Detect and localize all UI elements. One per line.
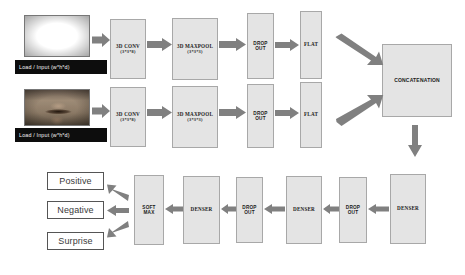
output-label-negative: Negative xyxy=(47,201,104,219)
arrow-softmax-to-negative xyxy=(107,205,129,216)
block-top-flat: FLAT xyxy=(300,11,322,79)
block-bottom-conv: 3D CONV (3*3*8) xyxy=(110,87,146,147)
input-caption-mouth-text: Load / Input (w*h*d) xyxy=(19,132,70,138)
arrow-dropout3-to-denser2 xyxy=(323,204,339,214)
block-bottom-maxpool-sub: (3*3*3) xyxy=(177,117,213,122)
arrow-denser2-to-dropout2 xyxy=(264,204,285,214)
arrow-denser1-to-softmax xyxy=(165,204,183,214)
arrow-dropout2-to-denser1 xyxy=(221,204,236,214)
block-top-maxpool-sub: (3*3*3) xyxy=(177,49,213,54)
arrow-concatenation-to-denser xyxy=(408,125,422,157)
arrow-top-conv-to-maxpool xyxy=(147,38,172,51)
arrow-bottom-dropout-to-flat xyxy=(275,107,299,119)
eye-region-face-crop xyxy=(24,15,90,57)
arrow-softmax-to-surprise xyxy=(107,220,129,238)
input-caption-eyes-text: Load / Input (w*h*d) xyxy=(19,64,70,70)
block-softmax-sub: MAX xyxy=(142,210,155,215)
block-softmax: SOFT MAX xyxy=(134,175,164,245)
mouth-region-face-crop xyxy=(24,89,90,126)
block-top-conv-sub: (3*3*8) xyxy=(116,49,140,54)
arrow-bottom-maxpool-to-dropout xyxy=(219,106,246,119)
arrow-bottom-flat-to-concatenation xyxy=(334,95,386,127)
block-top-flat-label: FLAT xyxy=(304,42,318,48)
output-label-positive-text: Positive xyxy=(59,176,91,186)
block-bottom-conv-sub: (3*3*8) xyxy=(116,117,140,122)
arrow-denser3-to-dropout3 xyxy=(368,204,389,214)
block-denser-2: DENSER xyxy=(286,176,322,244)
block-top-conv: 3D CONV (3*3*8) xyxy=(110,19,146,79)
block-denser-1-label: DENSER xyxy=(191,207,213,213)
block-dropout-2: DROP OUT xyxy=(236,177,263,243)
block-bottom-maxpool: 3D MAXPOOL (3*3*3) xyxy=(172,86,218,148)
block-dropout-2-sub: OUT xyxy=(242,210,256,215)
block-denser-3-label: DENSER xyxy=(397,206,419,212)
block-top-maxpool: 3D MAXPOOL (3*3*3) xyxy=(172,18,218,80)
arrow-bottom-conv-to-maxpool xyxy=(147,106,172,119)
output-label-surprise: Surprise xyxy=(47,232,104,250)
block-concatenation: CONCATENATION xyxy=(382,44,452,117)
arrow-top-flat-to-concatenation xyxy=(334,33,386,65)
input-caption-eyes: Load / Input (w*h*d) xyxy=(15,60,107,74)
arrow-bottom-input-to-conv xyxy=(92,104,110,118)
output-label-negative-text: Negative xyxy=(57,205,93,215)
block-dropout-3-sub: OUT xyxy=(346,210,360,215)
output-label-positive: Positive xyxy=(47,172,104,190)
arrow-top-input-to-conv xyxy=(92,33,110,47)
block-bottom-flat-label: FLAT xyxy=(304,112,318,118)
arrow-softmax-to-positive xyxy=(107,184,129,202)
output-label-surprise-text: Surprise xyxy=(58,236,92,246)
block-top-dropout-sub: OUT xyxy=(253,46,267,51)
arrow-top-dropout-to-flat xyxy=(275,39,299,51)
diagram-canvas: Load / Input (w*h*d) Load / Input (w*h*d… xyxy=(0,0,465,275)
block-dropout-3: DROP OUT xyxy=(339,177,367,243)
block-bottom-dropout: DROP OUT xyxy=(247,84,274,148)
block-denser-1: DENSER xyxy=(183,176,220,244)
block-denser-3: DENSER xyxy=(390,174,426,244)
block-bottom-flat: FLAT xyxy=(300,82,322,148)
arrow-top-maxpool-to-dropout xyxy=(219,38,246,51)
block-concatenation-label: CONCATENATION xyxy=(394,78,440,84)
block-bottom-dropout-sub: OUT xyxy=(253,116,267,121)
input-caption-mouth: Load / Input (w*h*d) xyxy=(15,128,107,142)
block-denser-2-label: DENSER xyxy=(293,207,315,213)
block-top-dropout: DROP OUT xyxy=(247,13,274,79)
